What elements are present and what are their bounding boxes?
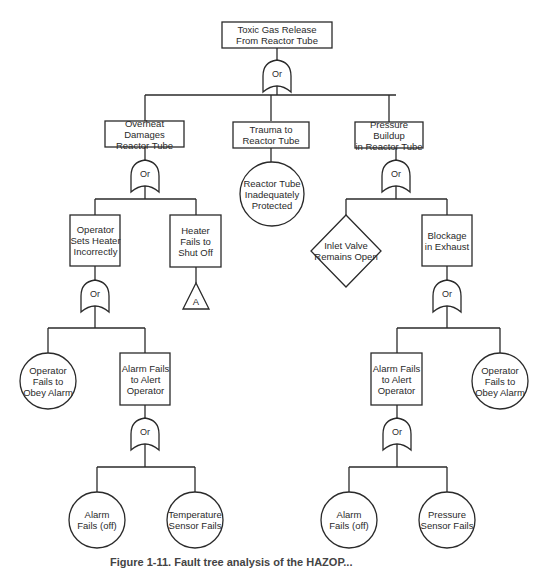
- pressure-label: Pressure Buildup in Reactor Tube: [355, 122, 423, 148]
- trauma-basic-label: Reactor Tube Inadequately Protected: [240, 162, 304, 226]
- trauma-label: Trauma to Reactor Tube: [233, 122, 309, 148]
- top-event-label: Toxic Gas Release From Reactor Tube: [222, 22, 332, 48]
- gate-label-right-alarm: Or: [383, 427, 411, 437]
- gate-label-overheat: Or: [131, 169, 159, 179]
- transfer-a-label: A: [186, 294, 206, 308]
- gate-label-pressure: Or: [382, 169, 410, 179]
- gate-label-left-alarm: Or: [131, 427, 159, 437]
- fault-tree-diagram: [0, 0, 544, 568]
- temperature-sensor-label: Temperature Sensor Fails: [167, 492, 223, 548]
- inlet-valve-label: Inlet Valve Remains Open: [311, 236, 381, 266]
- operator-sets-heater-label: Operator Sets Heater Incorrectly: [70, 215, 121, 266]
- gate-label-blockage: Or: [433, 289, 461, 299]
- left-alarm-off-label: Alarm Fails (off): [69, 492, 125, 548]
- gate-label-top: Or: [263, 69, 291, 79]
- left-alarm-alert-label: Alarm Fails to Alert Operator: [120, 353, 171, 405]
- pressure-sensor-label: Pressure Sensor Fails: [419, 492, 475, 548]
- right-operator-obey-label: Operator Fails to Obey Alarm: [472, 353, 528, 409]
- right-alarm-off-label: Alarm Fails (off): [321, 492, 377, 548]
- overheat-label: Overheat Damages Reactor Tube: [105, 121, 184, 147]
- heater-fails-label: Heater Fails to Shut Off: [170, 215, 221, 267]
- right-alarm-alert-label: Alarm Fails to Alert Operator: [371, 353, 422, 405]
- left-operator-obey-label: Operator Fails to Obey Alarm: [20, 353, 76, 409]
- figure-caption: Figure 1-11. Fault tree analysis of the …: [110, 556, 352, 568]
- blockage-label: Blockage in Exhaust: [422, 215, 472, 266]
- gate-label-operator-sets: Or: [81, 289, 109, 299]
